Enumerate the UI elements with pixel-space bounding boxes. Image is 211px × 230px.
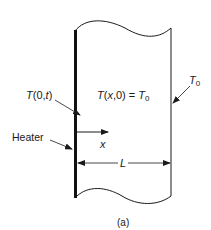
length-label: L	[120, 157, 126, 169]
slab-top-wave	[75, 21, 171, 36]
initial-condition-label: T(x,0) = T0	[97, 89, 150, 103]
heater-label: Heater	[12, 131, 44, 143]
figure-caption: (a)	[117, 217, 129, 228]
heater-arrow	[50, 140, 72, 149]
x-axis-label: x	[99, 138, 106, 150]
slab-bottom-wave	[77, 189, 171, 204]
boundary-temp-label: T(0,t)	[26, 89, 52, 101]
heat-conduction-diagram: T(0,t) T(x,0) = T0 T0 Heater x L (a)	[0, 0, 211, 230]
far-temp-arrow	[173, 86, 190, 103]
far-temp-label: T0	[189, 74, 201, 88]
